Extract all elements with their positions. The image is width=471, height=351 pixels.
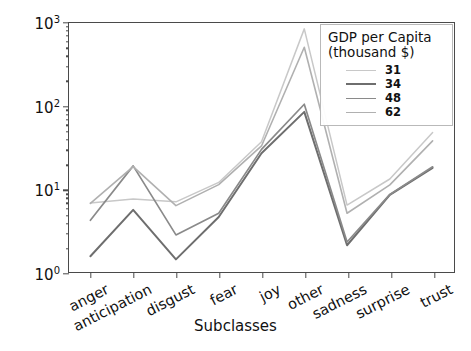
legend-label-31: 31 bbox=[385, 63, 401, 77]
x-axis-title: Subclasses bbox=[0, 317, 471, 335]
y-tick-mark bbox=[63, 22, 69, 23]
y-tick-minor bbox=[66, 125, 70, 126]
y-tick-minor bbox=[66, 47, 70, 48]
y-tick-minor bbox=[66, 223, 70, 224]
x-tick-mark bbox=[391, 272, 392, 278]
y-tick-minor bbox=[66, 81, 70, 82]
x-tick-mark bbox=[305, 272, 306, 278]
y-tick-label: 102 bbox=[35, 97, 60, 116]
legend-label-34: 34 bbox=[385, 77, 401, 91]
legend: GDP per Capita (thousand $) 31344862 bbox=[320, 24, 453, 126]
legend-entries: 31344862 bbox=[328, 63, 445, 119]
x-tick-mark bbox=[219, 272, 220, 278]
legend-title: GDP per Capita (thousand $) bbox=[328, 30, 445, 60]
y-tick-minor bbox=[66, 110, 70, 111]
legend-label-48: 48 bbox=[385, 91, 401, 105]
y-tick-minor bbox=[66, 56, 70, 57]
y-tick-minor bbox=[66, 119, 70, 120]
y-tick-label: 100 bbox=[35, 265, 60, 284]
y-tick-minor bbox=[66, 208, 70, 209]
x-tick-label-fear: fear bbox=[207, 281, 240, 308]
x-tick-mark bbox=[262, 272, 263, 278]
legend-title-line1: GDP per Capita bbox=[328, 30, 445, 45]
x-tick-mark bbox=[90, 272, 91, 278]
y-tick-minor bbox=[66, 193, 70, 194]
legend-swatch-48 bbox=[346, 98, 376, 99]
legend-swatch-31 bbox=[346, 70, 376, 71]
y-tick-minor bbox=[66, 114, 70, 115]
y-tick-minor bbox=[66, 215, 70, 216]
x-tick-mark bbox=[176, 272, 177, 278]
y-tick-label: 103 bbox=[35, 14, 60, 33]
y-tick-mark bbox=[63, 106, 69, 107]
y-tick-minor bbox=[66, 30, 70, 31]
y-tick-mark bbox=[63, 190, 69, 191]
x-tick-mark bbox=[133, 272, 134, 278]
y-tick-minor bbox=[66, 26, 70, 27]
x-tick-mark bbox=[348, 272, 349, 278]
y-tick-minor bbox=[66, 203, 70, 204]
y-tick-minor bbox=[66, 139, 70, 140]
x-tick-label-disgust: disgust bbox=[143, 281, 197, 319]
legend-swatch-34 bbox=[346, 83, 376, 85]
y-tick-minor bbox=[66, 41, 70, 42]
y-tick-minor bbox=[66, 150, 70, 151]
legend-title-line2: (thousand $) bbox=[328, 45, 445, 60]
chart-root: Number of contributions (log) 1001011021… bbox=[0, 0, 471, 351]
y-tick-minor bbox=[66, 198, 70, 199]
legend-swatch-62 bbox=[346, 112, 376, 113]
y-tick-minor bbox=[66, 248, 70, 249]
y-tick-mark bbox=[63, 273, 69, 274]
y-tick-minor bbox=[66, 131, 70, 132]
y-tick-minor bbox=[66, 66, 70, 67]
legend-item-62[interactable]: 62 bbox=[328, 105, 445, 119]
x-tick-label-joy: joy bbox=[256, 281, 282, 305]
x-tick-mark bbox=[434, 272, 435, 278]
legend-item-48[interactable]: 48 bbox=[328, 91, 445, 105]
legend-label-62: 62 bbox=[385, 105, 401, 119]
legend-item-34[interactable]: 34 bbox=[328, 77, 445, 91]
series-line-34 bbox=[90, 112, 432, 260]
y-tick-minor bbox=[66, 164, 70, 165]
y-tick-label: 101 bbox=[35, 181, 60, 200]
y-tick-minor bbox=[66, 233, 70, 234]
legend-item-31[interactable]: 31 bbox=[328, 63, 445, 77]
y-tick-minor bbox=[66, 35, 70, 36]
x-tick-label-trust: trust bbox=[417, 281, 455, 311]
